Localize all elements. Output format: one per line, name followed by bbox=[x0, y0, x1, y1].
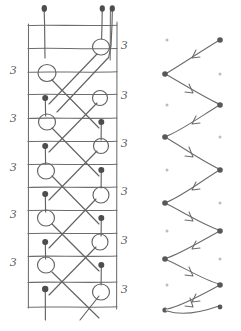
zigzag-node bbox=[162, 256, 168, 262]
zigzag-edge bbox=[167, 232, 218, 258]
zigzag-faint-node bbox=[166, 309, 169, 312]
braid-node bbox=[42, 239, 48, 245]
zigzag-node bbox=[217, 167, 223, 173]
braid-node bbox=[42, 286, 48, 292]
braid-loop bbox=[92, 234, 108, 250]
braid-node bbox=[98, 215, 104, 221]
right-label-3-4: 3 bbox=[121, 184, 128, 197]
strand-diagonal bbox=[52, 128, 99, 176]
strand-diagonal bbox=[52, 176, 99, 224]
zigzag-node bbox=[162, 200, 168, 206]
strand-diagonal bbox=[52, 224, 99, 271]
strand-tail bbox=[80, 296, 99, 320]
zigzag-node bbox=[162, 71, 168, 77]
strand-diagonal bbox=[49, 54, 97, 104]
right-label-3-5: 3 bbox=[121, 233, 128, 246]
strand-diagonal bbox=[52, 272, 99, 318]
zigzag-arrowhead bbox=[185, 267, 193, 276]
right-label-3-2: 3 bbox=[121, 88, 128, 101]
braid-node bbox=[98, 167, 104, 173]
zigzag-edge bbox=[167, 138, 219, 169]
left-label-3-3: 3 bbox=[10, 160, 17, 173]
strand-top-stub-b bbox=[102, 11, 103, 39]
strand-diagonal bbox=[49, 199, 96, 248]
zigzag-arrowhead bbox=[185, 212, 193, 221]
zigzag-edge bbox=[167, 260, 219, 284]
braid-strands bbox=[38, 11, 113, 320]
left-label-3-4: 3 bbox=[10, 207, 17, 220]
zigzag-arrowhead bbox=[185, 84, 193, 93]
zigzag-faint-node bbox=[219, 136, 222, 139]
zigzag-faint-node bbox=[219, 202, 222, 205]
zigzag-faint-node bbox=[166, 39, 169, 42]
strand-diagonal bbox=[49, 247, 96, 295]
braid-node bbox=[100, 5, 105, 12]
zigzag-node bbox=[162, 134, 168, 140]
strand-diagonal bbox=[57, 58, 108, 112]
left-label-3-5: 3 bbox=[10, 255, 17, 268]
zigzag-node bbox=[217, 228, 223, 234]
braid-node bbox=[98, 119, 104, 125]
right-label-3-1: 3 bbox=[121, 38, 128, 51]
zigzag-faint-node bbox=[166, 230, 169, 233]
braid-loop bbox=[93, 187, 109, 203]
right-label-3-6: 3 bbox=[121, 282, 128, 295]
zigzag-node bbox=[218, 305, 223, 310]
zigzag-node bbox=[217, 102, 223, 108]
braid-node bbox=[42, 143, 48, 149]
braid-node bbox=[98, 262, 104, 268]
zigzag-edge bbox=[167, 171, 218, 202]
braid-loop bbox=[94, 139, 109, 154]
braid-node bbox=[110, 5, 115, 12]
strand-diagonal bbox=[52, 80, 99, 128]
braid-node bbox=[42, 5, 47, 12]
braid-loop bbox=[39, 114, 56, 130]
braid-loop bbox=[93, 284, 110, 300]
zigzag-faint-node bbox=[219, 73, 222, 76]
zigzag-edge bbox=[167, 204, 219, 230]
strand-diagonal bbox=[49, 151, 97, 200]
zigzag-node bbox=[217, 282, 223, 288]
right-label-3-3: 3 bbox=[121, 136, 128, 149]
zigzag-node bbox=[217, 37, 223, 43]
strand-diagonal bbox=[49, 103, 97, 152]
braid-loop bbox=[93, 39, 110, 55]
zigzag-dark-nodes bbox=[162, 37, 223, 312]
zigzag-faint-node bbox=[219, 258, 222, 261]
braid-loop bbox=[93, 91, 108, 106]
braid-loop bbox=[38, 163, 55, 179]
left-label-3-1: 3 bbox=[10, 63, 17, 76]
zigzag-edge bbox=[167, 106, 218, 136]
zigzag-faint-node bbox=[166, 169, 169, 172]
zigzag-faint-node bbox=[166, 284, 169, 287]
figure-canvas: 3 3 3 3 3 3 3 3 3 3 3 bbox=[0, 0, 241, 331]
zigzag-faint-node bbox=[166, 104, 169, 107]
braid-loop bbox=[38, 65, 56, 82]
strand-top-stub-a bbox=[44, 11, 45, 58]
braid-node bbox=[42, 95, 48, 101]
zigzag-arrows bbox=[167, 41, 219, 313]
left-label-3-2: 3 bbox=[10, 111, 17, 124]
zigzag-edge bbox=[167, 75, 219, 104]
braid-node bbox=[42, 191, 48, 197]
